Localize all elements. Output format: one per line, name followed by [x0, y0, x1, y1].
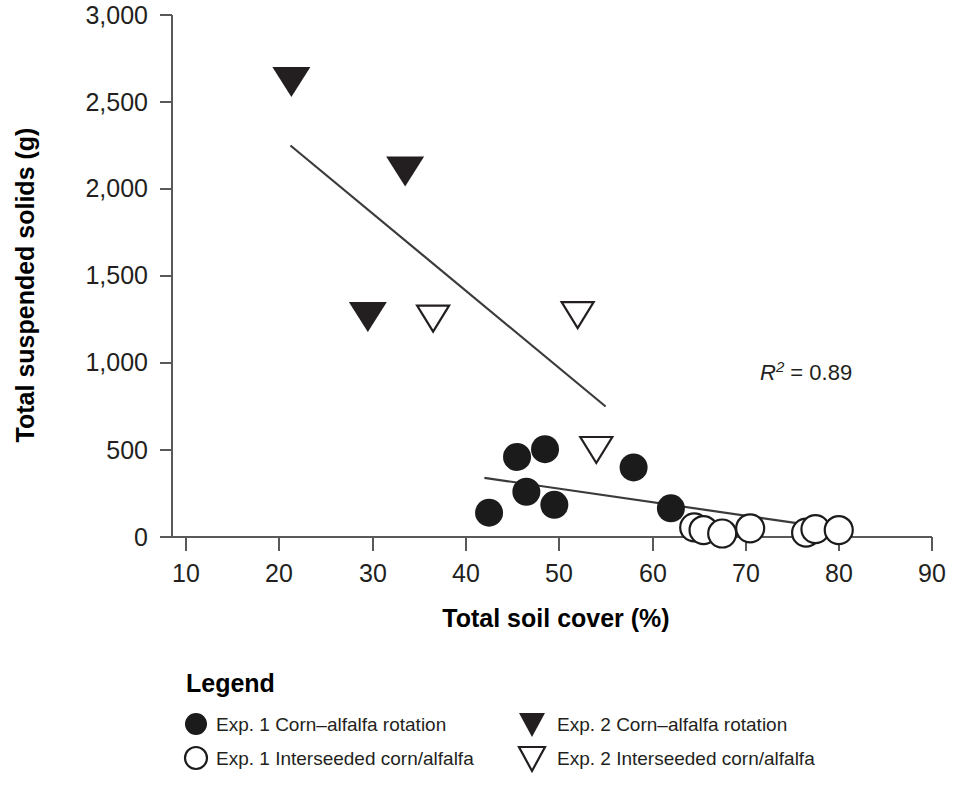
- r-squared-text: R2 = 0.89: [760, 358, 852, 385]
- y-tick-label-2500: 2,500: [85, 88, 148, 116]
- x-tick-label-80: 80: [825, 559, 853, 587]
- trendlines: [290, 146, 838, 530]
- y-tick-label-1500: 1,500: [85, 261, 148, 289]
- x-tick-label-20: 20: [265, 559, 293, 587]
- filled-circle-icon: [185, 713, 207, 735]
- r-squared-symbol: R: [760, 360, 776, 385]
- legend-title: Legend: [186, 669, 275, 697]
- data-point: [736, 514, 764, 542]
- y-tick-label-1000: 1,000: [85, 348, 148, 376]
- data-point: [708, 520, 736, 548]
- legend-item-exp2-interseeded[interactable]: Exp. 2 Interseeded corn/alfalfa: [519, 747, 815, 771]
- data-point: [580, 437, 612, 463]
- legend: Legend Exp. 1 Corn–alfalfa rotation Exp.…: [185, 669, 815, 771]
- data-point: [531, 435, 559, 463]
- x-axis-tick-labels: 10 20 30 40 50 60 70 80 90: [172, 559, 946, 587]
- x-tick-label-70: 70: [732, 559, 760, 587]
- y-axis-title: Total suspended solids (g): [11, 128, 39, 443]
- x-tick-label-10: 10: [172, 559, 200, 587]
- x-tick-label-30: 30: [359, 559, 387, 587]
- exp2-trendline: [290, 146, 605, 407]
- y-tick-label-500: 500: [106, 436, 148, 464]
- chart-figure: 3,000 2,500 2,000 1,500 1,000 500 0: [0, 0, 953, 792]
- data-point: [657, 494, 685, 522]
- legend-label-exp2-corn-alfalfa: Exp. 2 Corn–alfalfa rotation: [557, 714, 787, 735]
- x-tick-label-40: 40: [452, 559, 480, 587]
- data-point: [272, 67, 310, 97]
- legend-label-exp2-interseeded: Exp. 2 Interseeded corn/alfalfa: [557, 748, 815, 769]
- legend-label-exp1-interseeded: Exp. 1 Interseeded corn/alfalfa: [216, 748, 474, 769]
- x-tick-label-90: 90: [918, 559, 946, 587]
- open-triangle-down-icon: [519, 747, 545, 771]
- series-exp2-corn-alfalfa-points: [272, 67, 424, 332]
- data-point: [825, 516, 853, 544]
- r-squared-annotation: R2 = 0.89: [760, 358, 852, 385]
- data-point: [349, 302, 387, 332]
- data-point: [620, 453, 648, 481]
- data-point: [540, 491, 568, 519]
- open-circle-icon: [185, 747, 207, 769]
- x-tick-label-50: 50: [545, 559, 573, 587]
- y-axis: [160, 15, 172, 537]
- filled-triangle-down-icon: [519, 713, 545, 737]
- data-point: [503, 443, 531, 471]
- legend-item-exp2-corn-alfalfa[interactable]: Exp. 2 Corn–alfalfa rotation: [519, 713, 787, 737]
- y-tick-label-3000: 3,000: [85, 1, 148, 29]
- data-point: [475, 499, 503, 527]
- x-tick-label-60: 60: [639, 559, 667, 587]
- legend-label-exp1-corn-alfalfa: Exp. 1 Corn–alfalfa rotation: [216, 714, 446, 735]
- legend-item-exp1-corn-alfalfa[interactable]: Exp. 1 Corn–alfalfa rotation: [185, 713, 446, 735]
- series-exp2-interseeded-points: [417, 302, 612, 463]
- scatter-plot-svg: 3,000 2,500 2,000 1,500 1,000 500 0: [0, 0, 953, 792]
- data-point: [386, 157, 424, 187]
- y-tick-label-2000: 2,000: [85, 174, 148, 202]
- y-tick-label-0: 0: [134, 523, 148, 551]
- legend-item-exp1-interseeded[interactable]: Exp. 1 Interseeded corn/alfalfa: [185, 747, 474, 769]
- y-axis-tick-labels: 3,000 2,500 2,000 1,500 1,000 500 0: [85, 1, 148, 551]
- data-point: [512, 478, 540, 506]
- x-axis-title: Total soil cover (%): [442, 604, 669, 632]
- r-squared-value: = 0.89: [784, 360, 852, 385]
- data-point: [417, 306, 449, 332]
- data-point: [562, 302, 594, 328]
